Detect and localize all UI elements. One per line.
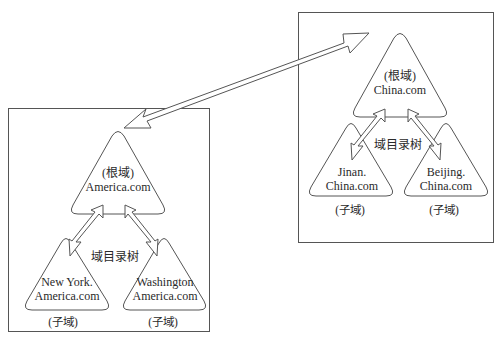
jinan-role: (子域) — [335, 203, 365, 217]
china-root-name: China.com — [374, 83, 426, 97]
beijing-role: (子域) — [429, 203, 459, 217]
america-root-name: America.com — [86, 180, 151, 194]
china-tree-label: 域目录树 — [374, 138, 422, 152]
newyork-name-line1: New York. — [41, 275, 93, 289]
america-tree-label: 域目录树 — [91, 250, 139, 264]
newyork-name-line2: America.com — [35, 289, 100, 303]
beijing-name-line1: Beijing. — [427, 165, 465, 179]
beijing-name-line2: China.com — [420, 179, 472, 193]
washington-name-line1: Washington — [136, 275, 193, 289]
china-root-role: (根域) — [384, 69, 416, 83]
newyork-role: (子域) — [48, 315, 78, 329]
washington-name-line2: America.com — [133, 289, 198, 303]
trust-double-arrow — [124, 33, 369, 128]
america-root-role: (根域) — [102, 166, 134, 180]
washington-role: (子域) — [148, 315, 178, 329]
jinan-name-line2: China.com — [326, 179, 378, 193]
jinan-name-line1: Jinan. — [338, 165, 366, 179]
